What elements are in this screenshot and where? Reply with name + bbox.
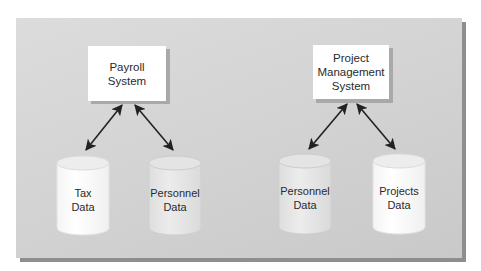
- payroll-system-label: Payroll System: [108, 60, 146, 88]
- arrow-payroll-tax: [86, 105, 122, 150]
- file-based-systems-diagram: Payroll System Project Management System…: [0, 0, 481, 271]
- tax-data-label: Tax Data: [48, 186, 118, 214]
- arrow-pm-personnel: [309, 104, 347, 149]
- projects-data-label: Projects Data: [364, 184, 434, 212]
- arrow-payroll-personnel: [135, 105, 173, 150]
- project-management-system-box: Project Management System: [313, 45, 389, 99]
- personnel-data-left-label: Personnel Data: [140, 186, 210, 214]
- project-management-system-label: Project Management System: [317, 51, 384, 93]
- connections-layer: [0, 0, 481, 271]
- payroll-system-box: Payroll System: [88, 46, 166, 101]
- personnel-data-right-label: Personnel Data: [270, 184, 340, 212]
- arrow-pm-projects: [357, 104, 395, 149]
